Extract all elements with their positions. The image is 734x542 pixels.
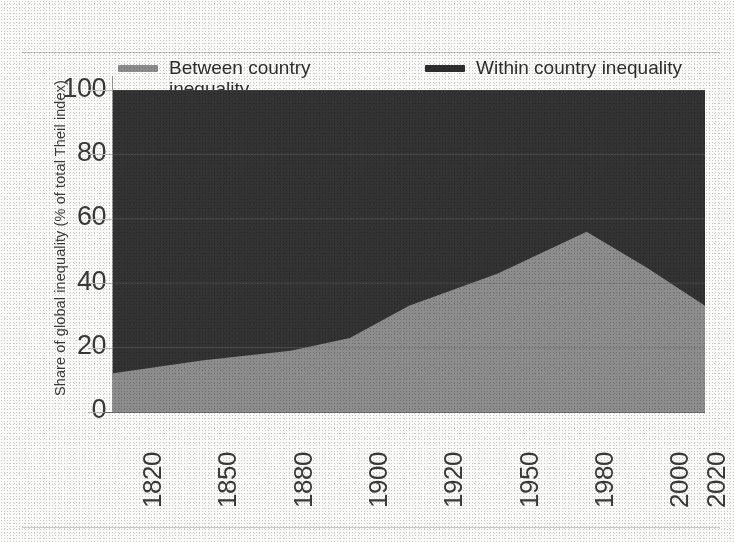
x-axis-line — [104, 412, 705, 413]
y-tick-label: 0 — [91, 396, 106, 423]
figure-top-rule — [22, 52, 720, 53]
y-tick-label: 60 — [77, 203, 106, 230]
y-axis-tick-labels: 100 80 60 40 20 0 — [40, 74, 106, 424]
x-tick-label: 1950 — [516, 452, 542, 508]
x-tick-label: 2000 — [666, 452, 692, 508]
y-axis-line — [112, 76, 113, 412]
y-tick-mark — [88, 283, 114, 284]
legend-swatch-between-country — [118, 65, 158, 72]
x-tick-label: 1880 — [290, 452, 316, 508]
legend-item-within-country[interactable]: Within country inequality — [425, 58, 682, 79]
y-tick-label: 100 — [62, 75, 106, 102]
y-tick-label: 20 — [77, 332, 106, 359]
x-tick-label: 2020 — [703, 452, 729, 508]
x-tick-label: 1900 — [365, 452, 391, 508]
chart-legend: Between country inequality Within countr… — [118, 54, 708, 90]
y-tick-label: 40 — [77, 268, 106, 295]
y-tick-label: 80 — [77, 139, 106, 166]
figure-bottom-rule — [22, 527, 720, 528]
x-tick-label: 1850 — [214, 452, 240, 508]
stacked-area-chart — [113, 90, 705, 412]
y-tick-mark — [88, 90, 114, 91]
x-axis-tick-labels: 1820 1850 1880 1900 1920 1950 1980 2000 … — [113, 418, 705, 513]
y-tick-mark — [88, 154, 114, 155]
x-tick-label: 1980 — [591, 452, 617, 508]
y-tick-mark — [88, 219, 114, 220]
x-tick-label: 1920 — [440, 452, 466, 508]
legend-swatch-within-country — [425, 65, 465, 72]
y-tick-mark — [88, 348, 114, 349]
x-tick-label: 1820 — [139, 452, 165, 508]
figure-page: Between country inequality Within countr… — [0, 0, 734, 542]
legend-label-within-country: Within country inequality — [476, 58, 682, 79]
chart-plot-area — [113, 90, 705, 412]
